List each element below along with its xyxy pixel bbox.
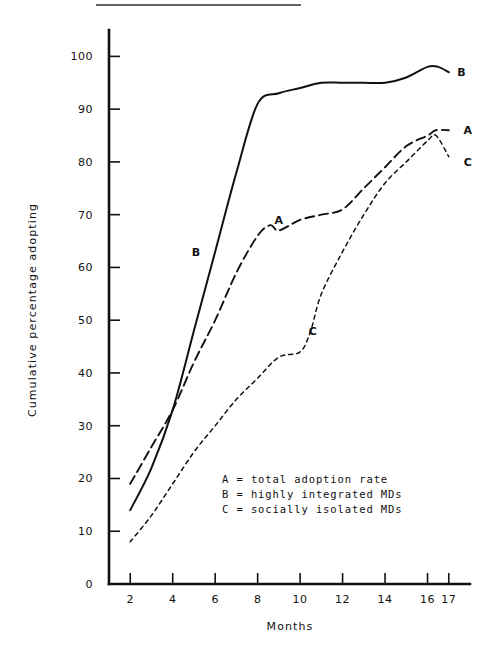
- x-tick-label-8: 8: [254, 593, 262, 606]
- legend: A = total adoption rate B = highly integ…: [222, 473, 403, 515]
- x-tick-label-2: 2: [126, 593, 134, 606]
- series-annotation-c-2: C: [309, 325, 317, 338]
- series-annotation-b-3: B: [457, 66, 465, 79]
- series-annotation-group: BACBAC: [192, 66, 473, 338]
- x-tick-label-14: 14: [378, 593, 393, 606]
- x-tick-label-10: 10: [293, 593, 308, 606]
- x-tick-label-group: 24681012141617: [126, 593, 456, 606]
- series-annotation-b-0: B: [192, 246, 200, 259]
- y-tick-label-80: 80: [78, 156, 93, 169]
- axes-group: [109, 30, 470, 584]
- y-tick-label-50: 50: [78, 314, 93, 327]
- y-tick-label-20: 20: [78, 472, 93, 485]
- y-tick-label-0: 0: [86, 578, 94, 591]
- y-tick-label-40: 40: [78, 367, 93, 380]
- y-tick-label-100: 100: [71, 50, 94, 63]
- series-line-b: [130, 66, 449, 510]
- legend-entry-b: B = highly integrated MDs: [222, 488, 403, 500]
- legend-entry-c: C = socially isolated MDs: [222, 503, 403, 515]
- y-tick-group: [109, 56, 120, 584]
- y-tick-label-30: 30: [78, 420, 93, 433]
- x-tick-label-16: 16: [420, 593, 435, 606]
- x-axis-title: Months: [267, 620, 314, 633]
- series-line-a: [130, 130, 449, 484]
- series-annotation-a-4: A: [464, 124, 473, 137]
- y-tick-label-90: 90: [78, 103, 93, 116]
- y-tick-label-group: 0102030405060708090100: [71, 50, 94, 591]
- x-tick-label-6: 6: [211, 593, 219, 606]
- line-chart: 0102030405060708090100 24681012141617 BA…: [0, 0, 485, 656]
- y-tick-label-10: 10: [78, 525, 93, 538]
- series-group: [130, 66, 449, 542]
- legend-entry-a: A = total adoption rate: [222, 473, 388, 485]
- series-annotation-a-1: A: [275, 214, 284, 227]
- y-tick-label-70: 70: [78, 209, 93, 222]
- x-tick-group: [130, 573, 449, 584]
- y-tick-label-60: 60: [78, 261, 93, 274]
- y-axis-title: Cumulative percentage adopting: [26, 203, 39, 417]
- x-tick-label-12: 12: [335, 593, 350, 606]
- x-tick-label-17: 17: [441, 593, 456, 606]
- x-tick-label-4: 4: [169, 593, 177, 606]
- figure-container: 0102030405060708090100 24681012141617 BA…: [0, 0, 485, 656]
- series-annotation-c-5: C: [464, 156, 472, 169]
